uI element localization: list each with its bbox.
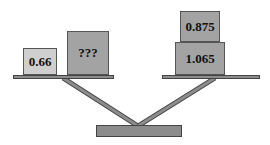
weight-unknown: ???: [67, 31, 109, 75]
weight-0-66: 0.66: [23, 48, 57, 75]
weight-1-065: 1.065: [175, 42, 225, 75]
weight-0-875: 0.875: [180, 11, 220, 42]
right-pan: [162, 75, 260, 79]
left-pan: [13, 75, 114, 79]
scale-base: [96, 125, 182, 137]
